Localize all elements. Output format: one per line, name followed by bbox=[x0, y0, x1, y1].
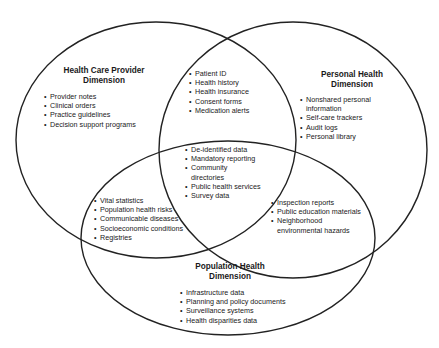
list-item: Consent forms bbox=[189, 97, 249, 106]
list-item: Health insurance bbox=[189, 87, 249, 96]
health-care-provider-list: Provider notes Clinical orders Practice … bbox=[44, 92, 164, 129]
title-line: Dimension bbox=[44, 76, 164, 86]
list-item: Neighborhood bbox=[271, 216, 361, 225]
list-item: Medication alerts bbox=[189, 106, 249, 115]
list-item: Self-care trackers bbox=[300, 113, 404, 122]
provider-population-list: Vital statistics Population health risks… bbox=[94, 196, 183, 242]
list-item: Mandatory reporting bbox=[185, 154, 261, 163]
list-item: Registries bbox=[94, 233, 183, 242]
all-three-list: De-identified data Mandatory reporting C… bbox=[185, 145, 261, 200]
personal-health-title: Personal Health Dimension bbox=[300, 70, 404, 90]
list-item: Surveillance systems bbox=[180, 306, 286, 315]
title-line: Health Care Provider bbox=[44, 66, 164, 76]
list-item-continuation: information bbox=[300, 104, 404, 113]
list-item: Health disparities data bbox=[180, 316, 286, 325]
title-line: Population Health bbox=[178, 262, 282, 272]
all-three-overlap: De-identified data Mandatory reporting C… bbox=[185, 145, 261, 200]
list-item: Practice guidelines bbox=[44, 110, 164, 119]
health-care-provider-region: Health Care Provider Dimension Provider … bbox=[44, 66, 164, 129]
list-item-continuation: directories bbox=[185, 173, 261, 182]
population-health-list: Infrastructure data Planning and policy … bbox=[180, 288, 286, 325]
list-item: Public education materials bbox=[271, 207, 361, 216]
title-line: Dimension bbox=[300, 80, 404, 90]
title-line: Dimension bbox=[178, 272, 282, 282]
provider-population-overlap: Vital statistics Population health risks… bbox=[94, 196, 183, 242]
list-item: Clinical orders bbox=[44, 101, 164, 110]
list-item: Planning and policy documents bbox=[180, 297, 286, 306]
title-line: Personal Health bbox=[300, 70, 404, 80]
list-item: Nonshared personal bbox=[300, 95, 404, 104]
personal-population-overlap: Inspection reports Public education mate… bbox=[271, 198, 361, 235]
list-item: Public health services bbox=[185, 182, 261, 191]
list-item-continuation: environmental hazards bbox=[271, 226, 361, 235]
provider-personal-overlap: Patient ID Health history Health insuran… bbox=[189, 69, 249, 115]
population-health-region: Population Health Dimension Infrastructu… bbox=[180, 262, 286, 325]
health-care-provider-title: Health Care Provider Dimension bbox=[44, 66, 164, 86]
list-item: Personal library bbox=[300, 132, 404, 141]
list-item: Provider notes bbox=[44, 92, 164, 101]
list-item: Community bbox=[185, 163, 261, 172]
personal-health-region: Personal Health Dimension Nonshared pers… bbox=[300, 70, 404, 141]
list-item: Inspection reports bbox=[271, 198, 361, 207]
list-item: De-identified data bbox=[185, 145, 261, 154]
provider-personal-list: Patient ID Health history Health insuran… bbox=[189, 69, 249, 115]
population-health-title: Population Health Dimension bbox=[178, 262, 282, 282]
personal-health-list: Nonshared personal information Self-care… bbox=[300, 95, 404, 141]
personal-population-list: Inspection reports Public education mate… bbox=[271, 198, 361, 235]
list-item: Patient ID bbox=[189, 69, 249, 78]
list-item: Communicable diseases bbox=[94, 214, 183, 223]
list-item: Socioeconomic conditions bbox=[94, 224, 183, 233]
list-item: Health history bbox=[189, 78, 249, 87]
list-item: Decision support programs bbox=[44, 120, 164, 129]
list-item: Audit logs bbox=[300, 123, 404, 132]
list-item: Population health risks bbox=[94, 205, 183, 214]
list-item: Infrastructure data bbox=[180, 288, 286, 297]
list-item: Vital statistics bbox=[94, 196, 183, 205]
list-item: Survey data bbox=[185, 191, 261, 200]
